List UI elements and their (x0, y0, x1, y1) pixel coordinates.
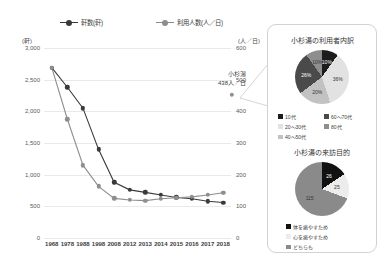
legend-swatch-icon (286, 224, 291, 229)
legend-swatch-icon (286, 245, 291, 250)
legend-item: 心を癒やすため (286, 233, 370, 240)
legend-item: 10代 (278, 113, 324, 120)
legend-label: 心を癒やすため (293, 233, 328, 240)
legend-swatch-icon (278, 114, 283, 119)
y-axis-tick-left: 0 (37, 235, 40, 241)
y-axis-tick-left: 3,000 (25, 45, 40, 51)
legend-swatch-icon (324, 124, 329, 129)
legend-label: どちらも (293, 243, 313, 250)
legend-label: 体を癒やすため (293, 223, 328, 230)
legend-item: 体を癒やすため (286, 223, 370, 230)
legend-label: 40〜50代 (285, 133, 306, 140)
legend-label: 軒数(軒) (81, 18, 103, 27)
y-axis-tick-left: 2,500 (25, 77, 40, 83)
pie-slice-label: 20% (312, 89, 322, 95)
legend-swatch-icon (278, 135, 283, 140)
pie-users-title: 小杉湯の利用者内訳 (268, 35, 376, 45)
pie-slice-label: 115 (306, 195, 314, 201)
legend-item-series2: 利用人数(人／日) (156, 18, 223, 27)
y-axis-tick-right: 600 (236, 45, 246, 51)
pie-purpose-legend: 体を癒やすため心を癒やすためどちらも (286, 223, 370, 254)
pie-users-chart: 10%36%20%26%10% (295, 50, 349, 104)
legend-swatch-icon (286, 234, 291, 239)
y-axis-tick-left: 500 (30, 203, 40, 209)
pie-purpose-circle: 2625115 (295, 162, 349, 216)
x-axis-tick: 2008 (107, 241, 120, 247)
detail-card: 小杉湯の利用者内訳 10%36%20%26%10% 10代60〜70代20〜30… (267, 24, 377, 253)
x-axis-tick: 2017 (201, 241, 214, 247)
legend-swatch-icon (324, 114, 329, 119)
x-axis-tick: 2014 (154, 241, 167, 247)
grid-line (44, 238, 231, 239)
y-axis-tick-right: 200 (236, 172, 246, 178)
pie-users-circle: 10%36%20%26%10% (295, 50, 349, 104)
y-axis-unit-left: (軒) (22, 36, 32, 45)
pie-slice-label: 26% (301, 72, 311, 78)
x-axis-tick: 2015 (170, 241, 183, 247)
y-axis-tick-right: 100 (236, 203, 246, 209)
legend-label: 10代 (285, 113, 296, 120)
chart-canvas: 軒数(軒) 利用人数(人／日) (軒) (人／日) 3,0006002,5005… (0, 0, 383, 275)
pie-slice-label: 25 (334, 184, 340, 190)
y-axis-tick-right: 300 (236, 140, 246, 146)
y-axis-tick-left: 2,000 (25, 108, 40, 114)
annotation-line2: 438人／日 (186, 79, 246, 88)
pie-purpose-chart: 2625115 (295, 162, 349, 216)
pie-purpose-title: 小杉湯の来訪目的 (268, 147, 376, 157)
pie-slice-label: 10% (322, 59, 332, 65)
legend-item: 60〜70代 (324, 113, 370, 120)
x-axis-tick: 1978 (61, 241, 74, 247)
legend-item-series1: 軒数(軒) (60, 18, 103, 27)
x-axis-tick: 2016 (185, 241, 198, 247)
y-axis-tick-left: 1,500 (25, 140, 40, 146)
legend-item: どちらも (286, 243, 370, 250)
x-axis-tick: 1998 (92, 241, 105, 247)
annotation-point (230, 93, 234, 97)
legend-label: 利用人数(人／日) (177, 18, 223, 27)
x-axis-tick: 2012 (123, 241, 136, 247)
legend-item: 80代 (324, 123, 370, 130)
y-axis-tick-right: 0 (236, 235, 239, 241)
legend-marker-icon (60, 22, 78, 23)
y-axis-unit-right: (人／日) (238, 36, 260, 45)
pie-slice-label: 10% (312, 59, 322, 65)
legend-item: 40〜50代 (278, 133, 324, 140)
legend-swatch-icon (278, 124, 283, 129)
legend-item: 20〜30代 (278, 123, 324, 130)
x-axis-tick: 2013 (139, 241, 152, 247)
pie-users-legend: 10代60〜70代20〜30代80代40〜50代 (278, 113, 370, 144)
annotation-line1: 小杉湯 (186, 70, 246, 79)
pie-slice-label: 36% (333, 76, 343, 82)
legend-label: 20〜30代 (285, 123, 306, 130)
line-chart-legend: 軒数(軒) 利用人数(人／日) (60, 18, 245, 32)
legend-label: 60〜70代 (331, 113, 352, 120)
legend-marker-icon (156, 22, 174, 23)
y-axis-tick-left: 1,000 (25, 172, 40, 178)
x-axis-tick: 1988 (76, 241, 89, 247)
x-axis-tick: 1968 (45, 241, 58, 247)
x-axis-tick: 2018 (217, 241, 230, 247)
annotation-kosugiyu: 小杉湯 438人／日 (186, 70, 246, 87)
pie-slice-label: 26 (326, 173, 332, 179)
legend-label: 80代 (331, 123, 342, 130)
